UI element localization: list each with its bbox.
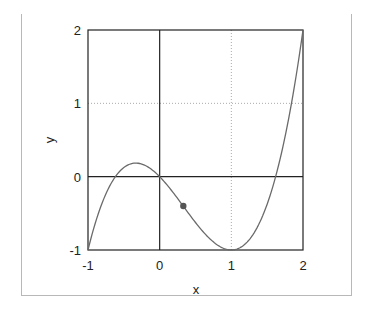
plot-frame [88, 30, 303, 250]
point-marker [180, 203, 186, 209]
x-tick-label: -1 [82, 258, 94, 273]
y-tick-labels: -1012 [69, 23, 81, 258]
function-curve [88, 30, 303, 250]
grid-lines [88, 30, 303, 250]
x-axis-label: x [193, 282, 200, 297]
function-plot: -1012 -1012 x y [0, 0, 367, 310]
y-tick-label: -1 [69, 243, 81, 258]
y-tick-label: 1 [74, 96, 81, 111]
x-tick-label: 0 [156, 258, 163, 273]
y-axis-label: y [42, 136, 57, 143]
x-tick-labels: -1012 [82, 258, 306, 273]
y-tick-label: 2 [74, 23, 81, 38]
x-tick-label: 2 [299, 258, 306, 273]
y-tick-label: 0 [74, 170, 81, 185]
zero-axes [88, 30, 303, 250]
x-tick-label: 1 [228, 258, 235, 273]
